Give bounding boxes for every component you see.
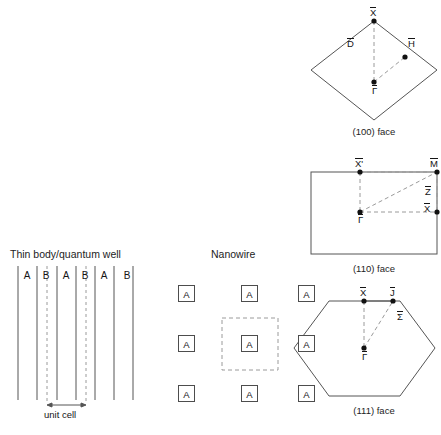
nanowire-panel-title: Nanowire xyxy=(211,248,255,260)
kpoint-dot-gamma xyxy=(361,345,366,350)
kpoint-label-j-111: J xyxy=(390,287,395,298)
thin-body-layer-label-5: A xyxy=(98,270,110,281)
bz-111-symmetry-points xyxy=(361,298,395,350)
thin-body-layer-label-2: B xyxy=(40,270,52,281)
nanowire-cell: A xyxy=(298,285,315,302)
figure-canvas: Thin body/quantum well xyxy=(0,0,441,435)
kpoint-label-d-100: D xyxy=(347,38,354,49)
kpoint-dot-h xyxy=(402,54,407,59)
kpoint-text: X' xyxy=(355,158,363,169)
kpoint-text: Z xyxy=(425,186,431,197)
bz-110-caption: (110) face xyxy=(311,263,437,274)
thin-body-layer-label-3: A xyxy=(60,270,72,281)
kpoint-dot-j xyxy=(390,298,395,303)
kpoint-label-gamma-110: Γ xyxy=(358,214,363,225)
nanowire-cell: A xyxy=(178,335,195,352)
nanowire-cell: A xyxy=(241,385,258,402)
kpoint-label-gamma-111: Γ xyxy=(362,351,367,362)
kpoint-text: J xyxy=(390,287,395,298)
kpoint-label-h-100: H xyxy=(408,38,415,49)
kpoint-dot-gamma xyxy=(371,79,376,84)
unit-cell-arrow xyxy=(47,403,86,407)
kpoint-text: Γ xyxy=(358,214,363,225)
kpoint-text: Γ xyxy=(362,351,367,362)
kpoint-label-x-110: X xyxy=(424,203,430,214)
unit-cell-label: unit cell xyxy=(44,409,76,420)
kpoint-text: H xyxy=(408,38,415,49)
kpoint-label-z-110: Z xyxy=(425,186,431,197)
kpoint-text: D xyxy=(347,38,354,49)
kpoint-label-gamma-100: Γ xyxy=(372,85,377,96)
bz-100-symmetry-points xyxy=(371,18,407,84)
kpoint-dot-x xyxy=(434,209,439,214)
kpoint-label-xprime-110: X' xyxy=(355,158,363,169)
nanowire-cell: A xyxy=(178,385,195,402)
kpoint-dot-xprime xyxy=(357,169,362,174)
rectangle-outline xyxy=(311,172,437,254)
kpoint-text: X xyxy=(360,287,366,298)
figure-vector-layer xyxy=(0,0,441,435)
gamma-j-path xyxy=(364,301,393,348)
kpoint-text: M xyxy=(430,158,438,169)
kpoint-label-x-100: X xyxy=(370,7,376,18)
thin-body-layer-label-1: A xyxy=(21,270,33,281)
bz-100-caption: (100) face xyxy=(311,126,437,137)
kpoint-dot-x xyxy=(361,298,366,303)
kpoint-dot-m xyxy=(434,169,439,174)
nanowire-cell: A xyxy=(241,285,258,302)
gamma-h-path xyxy=(374,57,405,82)
kpoint-label-m-110: M xyxy=(430,158,438,169)
nanowire-cell: A xyxy=(178,285,195,302)
kpoint-dot-x xyxy=(371,18,376,23)
nanowire-cell: A xyxy=(298,385,315,402)
bz-111-dashed-paths xyxy=(364,301,393,348)
kpoint-text: X xyxy=(424,203,430,214)
nanowire-cell-center: A xyxy=(241,335,258,352)
thin-body-unitcell-lines xyxy=(47,266,86,403)
thin-body-layer-label-4: B xyxy=(79,270,91,281)
thin-body-layer-label-6: B xyxy=(121,270,133,281)
kpoint-text: Σ xyxy=(397,311,403,322)
nanowire-cell: A xyxy=(298,335,315,352)
kpoint-text: Γ xyxy=(372,85,377,96)
thin-body-layer-lines xyxy=(18,266,133,400)
kpoint-label-sigma-111: Σ xyxy=(397,311,403,322)
bz-100-dashed-paths xyxy=(374,21,405,82)
kpoint-text: X xyxy=(370,7,376,18)
kpoint-label-x-111: X xyxy=(360,287,366,298)
bz-111-caption: (111) face xyxy=(311,405,437,416)
bz-110-outline xyxy=(311,172,437,254)
